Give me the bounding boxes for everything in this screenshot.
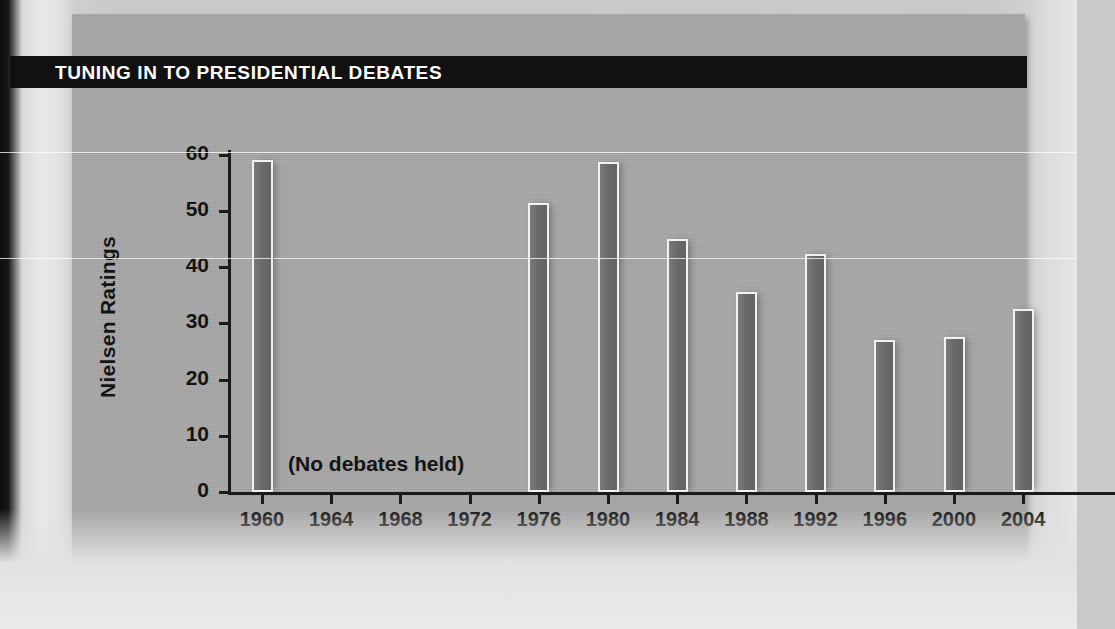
y-tick-10: [219, 435, 228, 438]
x-tick-2000: [953, 495, 956, 504]
x-axis-line: [228, 492, 1115, 495]
x-tick-label-1988: 1988: [711, 508, 781, 531]
y-tick-label-50: 50: [165, 197, 209, 221]
bar-1988: [736, 292, 757, 492]
x-tick-label-1992: 1992: [781, 508, 851, 531]
x-tick-1964: [330, 495, 333, 504]
y-tick-label-40: 40: [165, 253, 209, 277]
x-tick-2004: [1022, 495, 1025, 504]
x-tick-label-2004: 2004: [988, 508, 1058, 531]
y-tick-label-0: 0: [165, 478, 209, 502]
y-tick-50: [219, 210, 228, 213]
x-tick-1980: [607, 495, 610, 504]
x-tick-1976: [538, 495, 541, 504]
bar-1960: [252, 160, 273, 492]
x-tick-label-1968: 1968: [365, 508, 435, 531]
x-tick-1988: [745, 495, 748, 504]
x-tick-label-1960: 1960: [227, 508, 297, 531]
y-tick-label-20: 20: [165, 366, 209, 390]
y-tick-0: [219, 491, 228, 494]
y-tick-20: [219, 379, 228, 382]
y-tick-60: [219, 154, 228, 157]
y-tick-40: [219, 266, 228, 269]
x-tick-label-1996: 1996: [850, 508, 920, 531]
x-tick-label-1976: 1976: [504, 508, 574, 531]
bar-1996: [874, 340, 895, 492]
bar-1992: [805, 254, 826, 492]
y-tick-30: [219, 322, 228, 325]
bar-1980: [598, 162, 619, 492]
y-tick-label-10: 10: [165, 422, 209, 446]
bar-1984: [667, 239, 688, 492]
x-tick-1968: [399, 495, 402, 504]
x-tick-1960: [261, 495, 264, 504]
bar-2000: [944, 337, 965, 492]
y-axis-line: [228, 150, 231, 495]
x-tick-1972: [469, 495, 472, 504]
x-tick-label-1972: 1972: [435, 508, 505, 531]
y-tick-label-30: 30: [165, 309, 209, 333]
no-debates-annotation: (No debates held): [288, 452, 464, 476]
scan-seam-line-top: [0, 152, 1077, 153]
scan-seam-line-middle: [0, 258, 1077, 259]
x-tick-label-1980: 1980: [573, 508, 643, 531]
y-axis-label: Nielsen Ratings: [96, 197, 120, 437]
bar-1976: [528, 203, 549, 492]
x-tick-1996: [884, 495, 887, 504]
bar-2004: [1013, 309, 1034, 492]
x-tick-1984: [676, 495, 679, 504]
x-tick-label-2000: 2000: [919, 508, 989, 531]
x-tick-label-1964: 1964: [296, 508, 366, 531]
x-tick-label-1984: 1984: [642, 508, 712, 531]
x-tick-1992: [815, 495, 818, 504]
